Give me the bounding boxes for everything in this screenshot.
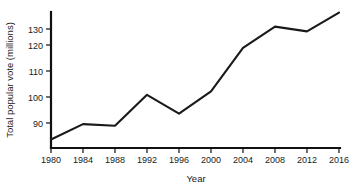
x-tick-label-2004: 2004 [233,155,253,165]
x-tick-label-1988: 1988 [105,155,125,165]
x-axis-group: 1980 1984 1988 1992 1996 2000 2004 2008 … [41,148,349,184]
line-chart: 90 100 110 120 130 Total popular vote (m… [0,0,362,192]
x-tick-label-2016: 2016 [329,155,349,165]
data-series-line [51,13,339,140]
x-tick-label-2008: 2008 [265,155,285,165]
x-tick-label-1992: 1992 [137,155,157,165]
x-tick-label-1980: 1980 [41,155,61,165]
y-tick-label-130: 130 [28,25,43,35]
x-tick-label-1984: 1984 [73,155,93,165]
x-tick-label-2012: 2012 [297,155,317,165]
y-axis-title: Total popular vote (millions) [4,22,15,138]
x-tick-label-2000: 2000 [201,155,221,165]
y-tick-label-120: 120 [28,41,43,51]
y-axis-group: 90 100 110 120 130 Total popular vote (m… [4,12,51,148]
y-tick-label-100: 100 [28,93,43,103]
x-tick-label-1996: 1996 [169,155,189,165]
y-tick-label-110: 110 [29,67,43,77]
x-axis-title: Year [186,173,205,184]
chart-canvas: 90 100 110 120 130 Total popular vote (m… [0,0,362,192]
y-tick-label-90: 90 [33,119,43,129]
